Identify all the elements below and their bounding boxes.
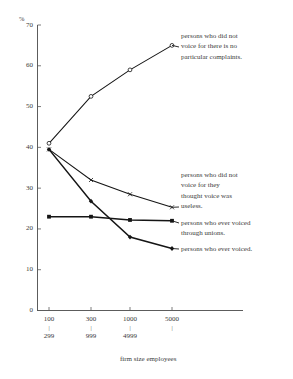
y-axis-tick-label: 20 <box>19 224 33 232</box>
chart-page: % 706050403020100 100|299300|9991000|499… <box>0 0 293 379</box>
x-axis-tick-label: 5000| <box>157 315 187 332</box>
x-axis-tick-label: 100|299 <box>34 315 64 341</box>
annotation-line: particular complaints. <box>181 52 242 62</box>
x-axis-tick-label-part: | <box>157 324 187 332</box>
x-axis-tick-label-part: 999 <box>76 332 106 341</box>
series-data-point <box>89 215 93 219</box>
series-data-point <box>47 215 51 219</box>
series-polyline <box>49 45 172 143</box>
annotation-line: persons who ever voiced. <box>181 244 252 254</box>
series-polyline <box>49 149 172 248</box>
annotation-leader-lines <box>172 45 179 249</box>
x-axis-ticks <box>49 307 172 311</box>
chart-series-layer <box>47 43 174 250</box>
annotation-line: voice for there is no <box>181 41 242 51</box>
series-data-point <box>89 94 93 98</box>
x-axis-tick-label-part: | <box>76 324 106 332</box>
annotation-line: through unions. <box>181 228 250 238</box>
y-axis-tick-label: 10 <box>19 265 33 273</box>
y-axis-tick-label: 40 <box>19 143 33 151</box>
x-axis-tick-label-part: 100 <box>34 315 64 324</box>
x-axis-tick-label-part: | <box>34 324 64 332</box>
x-axis-title: firm size employees <box>120 355 176 363</box>
annotation-line: useless. <box>181 201 238 211</box>
x-axis-tick-label-part: 5000 <box>157 315 187 324</box>
series-data-point <box>128 68 132 72</box>
y-axis-tick-label: 60 <box>19 61 33 69</box>
chart-series-1 <box>47 147 174 209</box>
y-axis-tick-label: 50 <box>19 102 33 110</box>
chart-series-3 <box>47 147 174 251</box>
annotation-line: persons who did not <box>181 170 238 180</box>
annotation-no-complaints: persons who did not voice for there is n… <box>181 31 242 62</box>
annotation-useless: persons who did not voice for they thoug… <box>181 170 238 212</box>
series-data-point <box>47 141 51 145</box>
annotation-ever-voiced: persons who ever voiced. <box>181 244 252 254</box>
x-axis-tick-label-part: | <box>115 324 145 332</box>
annotation-line: persons who ever voiced <box>181 218 250 228</box>
chart-axes <box>37 25 243 311</box>
y-axis-ticks <box>38 25 42 311</box>
x-axis-tick-label-part: 300 <box>76 315 106 324</box>
y-axis-tick-label: 0 <box>19 306 33 314</box>
x-axis-tick-label: 1000|4999 <box>115 315 145 341</box>
x-axis-tick-label-part: 4999 <box>115 332 145 341</box>
annotation-line: thought voice was <box>181 191 238 201</box>
annotation-line: voice for they <box>181 180 238 190</box>
series-polyline <box>49 149 172 207</box>
x-axis-tick-label-part: 1000 <box>115 315 145 324</box>
series-data-point <box>128 218 132 222</box>
annotation-line: persons who did not <box>181 31 242 41</box>
x-axis-tick-label: 300|999 <box>76 315 106 341</box>
annotation-unions: persons who ever voiced through unions. <box>181 218 250 239</box>
chart-series-0 <box>47 43 174 145</box>
y-axis-tick-label: 70 <box>19 21 33 29</box>
x-axis-tick-label-part: 299 <box>34 332 64 341</box>
y-axis-tick-label: 30 <box>19 184 33 192</box>
